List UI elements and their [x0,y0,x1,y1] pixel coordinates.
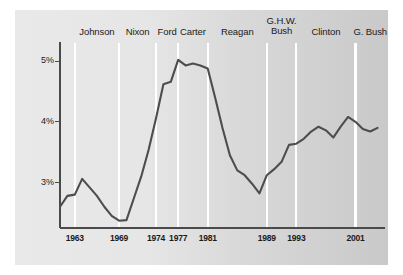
x-tick-label-1993: 1993 [271,233,321,243]
data-line-rate [60,60,378,221]
x-tick-label-1981: 1981 [183,233,233,243]
y-tick-label-5pct: 5% [20,55,54,65]
y-tick-label-4pct: 4% [20,116,54,126]
y-tick-label-3pct: 3% [20,177,54,187]
era-label-g-bush: G. Bush [320,27,403,37]
x-tick-label-1963: 1963 [50,233,100,243]
chart-figure: JohnsonNixonFordCarterReaganG.H.W.BushCl… [0,0,403,275]
x-tick-label-2001: 2001 [330,233,380,243]
